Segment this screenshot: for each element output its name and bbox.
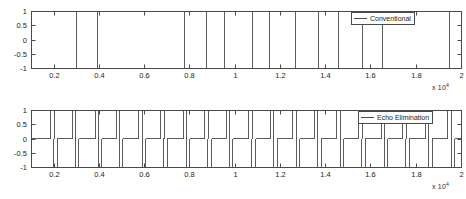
x-axis-exponent-power-top: 4 <box>446 82 449 88</box>
legend-label-conventional: Conventional <box>370 15 411 22</box>
svg-text:1.8: 1.8 <box>411 71 421 80</box>
svg-text:0.5: 0.5 <box>17 21 27 30</box>
svg-text:0.2: 0.2 <box>49 170 59 179</box>
svg-text:2: 2 <box>459 170 463 179</box>
svg-text:1.2: 1.2 <box>275 170 285 179</box>
svg-text:0.6: 0.6 <box>139 170 149 179</box>
svg-text:1.4: 1.4 <box>320 71 330 80</box>
svg-text:2: 2 <box>459 71 463 80</box>
svg-text:1.6: 1.6 <box>365 170 375 179</box>
svg-text:-1: -1 <box>20 163 27 172</box>
svg-text:-0.5: -0.5 <box>14 50 27 59</box>
svg-text:-1: -1 <box>20 64 27 73</box>
matlab-figure: 0.20.40.60.811.21.41.61.82-1-0.500.51 Co… <box>0 0 466 199</box>
svg-text:0.2: 0.2 <box>49 71 59 80</box>
svg-text:0.8: 0.8 <box>184 170 194 179</box>
svg-text:0.8: 0.8 <box>184 71 194 80</box>
legend-label-echo-elimination: Echo Elimination <box>377 114 429 121</box>
legend-conventional[interactable]: Conventional <box>351 12 415 25</box>
x-axis-exponent-bottom: x 104 <box>432 183 449 190</box>
svg-text:-0.5: -0.5 <box>14 149 27 158</box>
x-axis-exponent-text-top: x 10 <box>432 84 446 91</box>
legend-echo-elimination[interactable]: Echo Elimination <box>358 111 433 124</box>
x-axis-exponent-power-bottom: 4 <box>446 181 449 187</box>
svg-text:1.6: 1.6 <box>365 71 375 80</box>
svg-text:1: 1 <box>23 106 27 115</box>
x-axis-exponent-top: x 104 <box>432 84 449 91</box>
svg-text:0: 0 <box>23 135 27 144</box>
legend-line-icon <box>361 117 374 118</box>
x-axis-exponent-text-bottom: x 10 <box>432 183 446 190</box>
svg-text:0: 0 <box>23 36 27 45</box>
svg-text:1.4: 1.4 <box>320 170 330 179</box>
svg-text:1: 1 <box>233 71 237 80</box>
svg-text:1: 1 <box>233 170 237 179</box>
svg-text:1.8: 1.8 <box>411 170 421 179</box>
svg-text:0.4: 0.4 <box>94 71 104 80</box>
svg-text:0.4: 0.4 <box>94 170 104 179</box>
svg-text:1.2: 1.2 <box>275 71 285 80</box>
svg-text:0.6: 0.6 <box>139 71 149 80</box>
svg-text:0.5: 0.5 <box>17 120 27 129</box>
svg-text:1: 1 <box>23 7 27 16</box>
legend-line-icon <box>354 18 367 19</box>
